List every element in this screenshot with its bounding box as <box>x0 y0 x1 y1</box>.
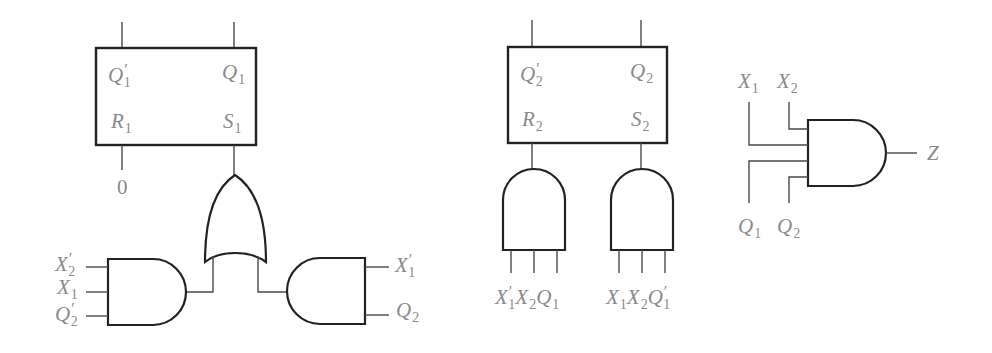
z-gate-x2-wire <box>789 102 808 129</box>
s2-gate-input-labels: X1X2Q′1 <box>606 284 670 312</box>
ff1-q-label: Q1 <box>222 62 245 87</box>
or-gate-s1 <box>205 175 266 262</box>
and-gate-r2 <box>503 169 565 250</box>
ff1-q-bar-label: Q′1 <box>108 62 131 90</box>
left-and-input-2-label: X1 <box>57 277 78 302</box>
and-gate-z <box>808 120 886 186</box>
z-gate-q2-wire <box>789 177 808 203</box>
right-and-input-2-label: Q2 <box>396 300 419 325</box>
flipflop-1 <box>96 22 256 175</box>
ff1-s-label: S1 <box>223 111 242 136</box>
flipflop-2 <box>508 20 667 170</box>
and-gate-left <box>108 259 186 325</box>
z-gate-x1-wire <box>749 102 808 145</box>
right-and-input-1-label: X′1 <box>395 252 415 280</box>
left-and-input-3-label: Q′2 <box>55 301 78 329</box>
r2-gate-input-labels: X′1X2Q1 <box>495 284 559 312</box>
z-gate-q2-label: Q2 <box>777 216 800 241</box>
z-output-label: Z <box>927 143 939 164</box>
wire-right-and-to-or <box>258 256 287 292</box>
and-gate-s2 <box>611 169 673 250</box>
ff2-q-label: Q2 <box>630 61 653 86</box>
z-gate-q1-label: Q1 <box>738 216 761 241</box>
wire-left-and-to-or <box>186 256 213 292</box>
z-gate-x2-label: X2 <box>777 71 798 96</box>
ff2-r-label: R2 <box>522 109 543 134</box>
z-gate-x1-label: X1 <box>738 71 759 96</box>
ff1-r-label: R1 <box>111 111 132 136</box>
ff2-q-bar-label: Q′2 <box>520 61 543 89</box>
and-gate-right <box>287 258 365 324</box>
circuit-diagram: Q′1 Q1 R1 S1 0 X′2 X1 Q′2 X′1 Q2 Q′2 Q2 … <box>0 0 992 353</box>
ff2-s-label: S2 <box>631 109 650 134</box>
ff1-r-input-value: 0 <box>117 177 128 198</box>
z-gate-q1-wire <box>749 161 808 203</box>
